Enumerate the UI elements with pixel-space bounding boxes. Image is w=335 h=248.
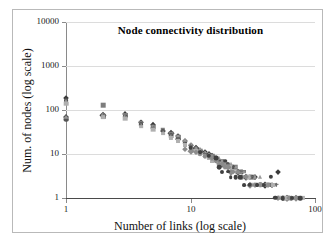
x-tick-label: 100 <box>295 205 335 214</box>
x-axis-label: Number of links (log scale) <box>40 219 320 234</box>
y-tick-mark <box>62 22 66 23</box>
y-tick-mark <box>62 154 66 155</box>
gridline <box>66 154 315 155</box>
x-tick-mark <box>191 199 192 203</box>
y-tick-mark <box>62 66 66 67</box>
x-tick-mark <box>315 199 316 203</box>
y-axis-label: Num. of nodes (log scale) <box>20 36 35 186</box>
x-tick-mark <box>66 199 67 203</box>
gridline <box>66 22 315 23</box>
y-tick-label: 1 <box>0 193 59 202</box>
chart-title: Node connectivity distribution <box>66 24 315 36</box>
y-tick-label: 10000 <box>0 17 59 26</box>
chart-figure: 110100100010000 110100 Node connectivity… <box>0 0 335 248</box>
x-tick-label: 10 <box>171 205 211 214</box>
gridline <box>66 66 315 67</box>
y-tick-mark <box>62 110 66 111</box>
x-tick-label: 1 <box>46 205 86 214</box>
gridline <box>66 110 315 111</box>
